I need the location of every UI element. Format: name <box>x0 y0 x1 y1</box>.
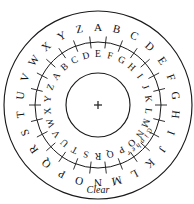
tick-mark <box>74 158 78 169</box>
cipher-letter-a: A <box>49 70 62 82</box>
clear-letter-c: C <box>128 28 140 42</box>
cipher-letter-u: U <box>58 137 71 150</box>
clear-letter-e: E <box>156 54 170 67</box>
cipher-letter-l: L <box>143 108 155 115</box>
clear-letter-q: Q <box>39 157 53 171</box>
clear-letter-u: U <box>14 91 27 100</box>
clear-letter-h: H <box>169 110 182 119</box>
cipher-letter-z: Z <box>44 82 56 92</box>
tick-mark <box>118 40 122 51</box>
clear-letter-a: A <box>94 21 102 33</box>
cipher-letter-c: C <box>69 53 80 66</box>
tick-mark <box>74 40 78 51</box>
tick-mark <box>118 158 122 169</box>
clear-letter-d: D <box>143 39 157 53</box>
clear-letter-m: M <box>110 174 123 188</box>
cipher-letter-y: Y <box>41 95 53 103</box>
cipher-letter-g: G <box>116 53 127 66</box>
clear-letter-x: X <box>39 39 53 53</box>
tick-mark <box>59 152 66 162</box>
clear-letter-p: P <box>56 168 67 182</box>
cipher-letter-i: I <box>135 71 146 80</box>
clear-letter-b: B <box>112 22 122 35</box>
cipher-letter-s: S <box>82 149 90 161</box>
center-marker <box>94 101 102 109</box>
clear-letter-r: R <box>26 143 40 156</box>
tick-mark <box>148 73 159 79</box>
cipher-letter-t: T <box>69 144 79 157</box>
clear-letter-w: W <box>26 52 42 68</box>
cipher-letter-r: R <box>94 151 101 162</box>
clear-letter-k: K <box>143 157 157 171</box>
cipher-letter-h: H <box>126 60 139 73</box>
tick-mark <box>37 73 48 79</box>
clear-letter-s: S <box>18 128 31 138</box>
clear-letter-l: L <box>128 168 140 182</box>
tick-mark <box>130 48 137 58</box>
tick-mark <box>37 131 48 137</box>
clear-letter-t: T <box>14 110 27 118</box>
cipher-letter-p: P <box>117 144 127 156</box>
cipher-letter-j: J <box>140 83 152 91</box>
clear-letter-i: I <box>165 129 178 137</box>
tick-mark <box>59 48 66 58</box>
clear-letter-f: F <box>165 72 178 82</box>
clear-ring-label: Clear <box>87 184 110 195</box>
clear-letter-y: Y <box>55 28 68 42</box>
cipher-letter-q: Q <box>106 149 115 161</box>
cipher-letter-f: F <box>106 49 114 61</box>
clear-letter-v: V <box>18 71 32 83</box>
cipher-letter-e: E <box>95 48 101 59</box>
cipher-letter-v: V <box>49 128 62 140</box>
cipher-disk-diagram: ABCDEFGHIJKLMNOPQRSTUVWXYZ EFGHIJKLMNOPQ… <box>0 0 194 204</box>
cipher-letter-d: D <box>81 49 90 61</box>
cipher-letter-w: W <box>43 116 57 129</box>
cipher-letter-b: B <box>58 60 70 72</box>
clear-letter-j: J <box>156 144 169 155</box>
clear-letter-o: O <box>74 174 85 188</box>
clear-letter-g: G <box>169 91 182 100</box>
cipher-letter-k: K <box>143 95 155 103</box>
cipher-letter-x: X <box>41 107 53 115</box>
clear-letter-z: Z <box>74 22 84 35</box>
